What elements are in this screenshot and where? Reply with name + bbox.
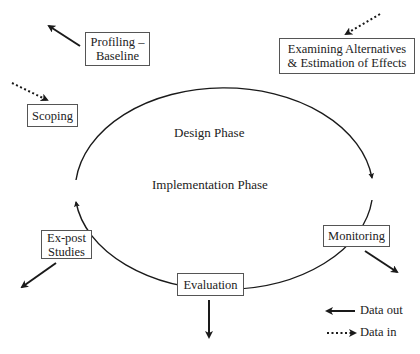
node-label-line: Baseline <box>96 49 139 63</box>
monitoring-data-out-arrow <box>365 251 397 272</box>
ex-post-data-out-arrow <box>22 263 56 287</box>
node-label-line: Evaluation <box>183 278 237 292</box>
node-label-line: & Estimation of Effects <box>288 56 407 70</box>
legend-data-out-label: Data out <box>360 303 403 318</box>
node-label-line: Profiling – <box>91 35 145 49</box>
node-label-line: Studies <box>48 245 85 259</box>
node-ex-post-studies: Ex-post Studies <box>41 230 92 259</box>
examining-data-in-arrow <box>346 14 380 34</box>
legend-data-in-label: Data in <box>360 325 396 340</box>
design-phase-label: Design Phase <box>174 125 244 141</box>
node-scoping: Scoping <box>27 104 78 127</box>
scoping-data-in-arrow <box>12 83 47 100</box>
node-monitoring: Monitoring <box>323 225 390 247</box>
node-label-line: Monitoring <box>328 229 385 243</box>
implementation-phase-label: Implementation Phase <box>152 177 268 193</box>
node-label-line: Examining Alternatives <box>288 42 406 56</box>
node-label-line: Ex-post <box>47 231 86 245</box>
node-profiling-baseline: Profiling – Baseline <box>85 32 150 66</box>
node-examining-alternatives: Examining Alternatives & Estimation of E… <box>279 38 415 74</box>
profiling-data-out-arrow <box>49 26 80 46</box>
node-label-line: Scoping <box>32 109 73 123</box>
node-evaluation: Evaluation <box>177 273 244 296</box>
